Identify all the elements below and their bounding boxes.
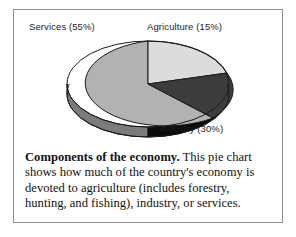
pie-label-services: Services (55%) [29,21,95,32]
pie-chart: Services (55%) Agriculture (15%) Industr… [14,10,284,143]
pie-label-industry: Industry (30%) [160,123,223,134]
figure-caption: Components of the economy. This pie char… [25,150,273,212]
pie-label-agriculture: Agriculture (15%) [147,21,222,32]
caption-lead-in: Components of the economy. [25,150,180,164]
figure-root: Services (55%) Agriculture (15%) Industr… [0,0,296,237]
figure-frame: Services (55%) Agriculture (15%) Industr… [13,9,283,223]
